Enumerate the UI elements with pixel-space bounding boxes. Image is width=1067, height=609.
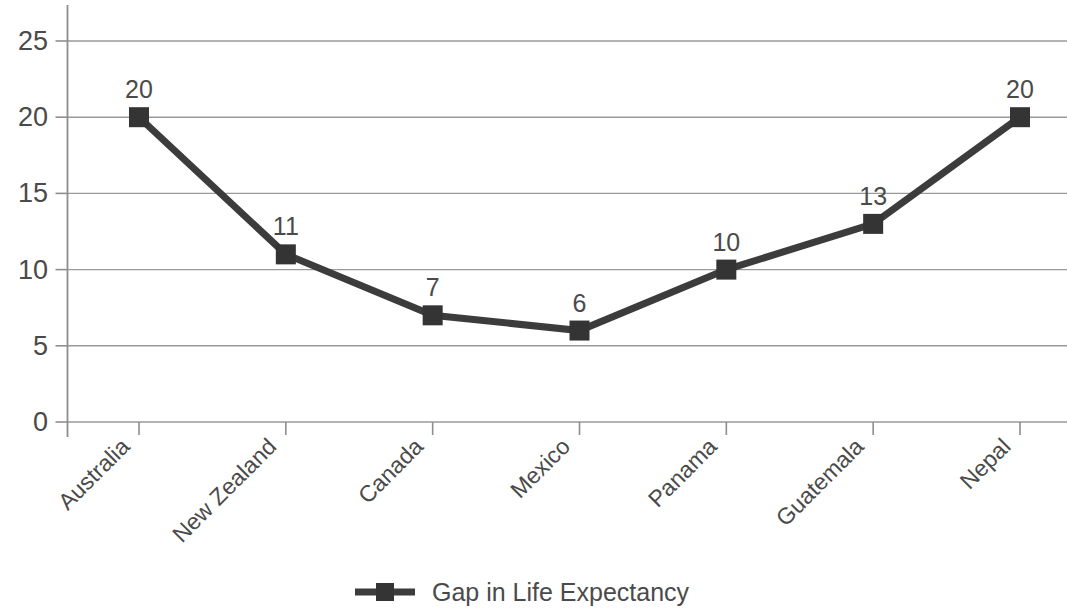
- chart-background: [0, 0, 1067, 609]
- y-tick-label-15: 15: [18, 178, 48, 208]
- data-label-australia: 20: [125, 75, 153, 103]
- y-tick-label-10: 10: [18, 255, 48, 285]
- data-label-canada: 7: [426, 273, 440, 301]
- data-label-new-zealand: 11: [273, 212, 299, 240]
- data-point-marker-australia: [129, 107, 149, 127]
- data-label-nepal: 20: [1006, 75, 1034, 103]
- legend-marker-square: [376, 583, 394, 601]
- data-label-panama: 10: [712, 228, 740, 256]
- legend-label-gap-in-life-expectancy: Gap in Life Expectancy: [432, 578, 690, 606]
- data-label-mexico: 6: [573, 289, 587, 317]
- data-label-guatemala: 13: [859, 182, 887, 210]
- data-point-marker-nepal: [1010, 107, 1030, 127]
- data-point-marker-panama: [716, 260, 736, 280]
- y-tick-label-20: 20: [18, 102, 48, 132]
- y-tick-label-5: 5: [33, 331, 48, 361]
- y-tick-label-0: 0: [33, 407, 48, 437]
- y-tick-label-25: 25: [18, 26, 48, 56]
- line-chart: 0510152025 AustraliaNew ZealandCanadaMex…: [0, 0, 1067, 609]
- data-point-marker-canada: [423, 305, 443, 325]
- data-point-marker-new-zealand: [276, 244, 296, 264]
- chart-canvas: 0510152025 AustraliaNew ZealandCanadaMex…: [0, 0, 1067, 609]
- data-point-marker-mexico: [570, 321, 590, 341]
- data-point-marker-guatemala: [863, 214, 883, 234]
